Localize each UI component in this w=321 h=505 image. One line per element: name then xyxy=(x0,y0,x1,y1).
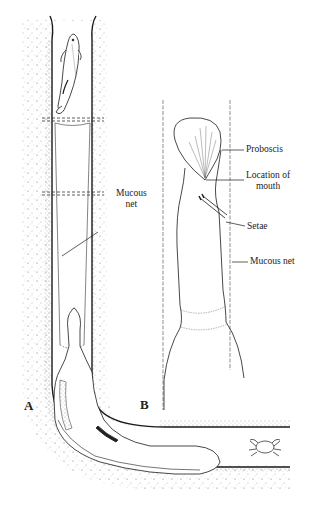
worm-a xyxy=(54,308,220,474)
worm-b xyxy=(163,100,244,410)
illustration-canvas xyxy=(0,0,321,505)
label-mucous-net-a: Mucous net xyxy=(116,188,147,210)
label-location-of-mouth: Location of mouth xyxy=(246,170,290,192)
label-proboscis: Proboscis xyxy=(246,144,283,155)
label-mucous-net-b: Mucous net xyxy=(250,256,295,267)
label-setae: Setae xyxy=(247,221,268,232)
panel-label-b: B xyxy=(140,397,149,413)
panel-label-a: A xyxy=(24,398,33,414)
